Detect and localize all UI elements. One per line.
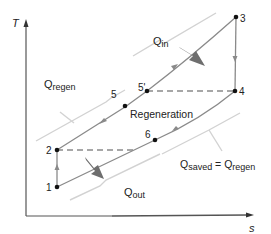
t-axis-label: T bbox=[12, 17, 20, 29]
q-out-label: Qout bbox=[124, 186, 146, 200]
q-in-label: Qin bbox=[153, 35, 169, 49]
q-saved-label: Qsaved = Qregen bbox=[180, 158, 255, 172]
s-axis-label-text: s bbox=[249, 222, 255, 234]
point-2 bbox=[55, 148, 60, 153]
q-regen-label: Qregen bbox=[44, 78, 76, 92]
ts-diagram: T bbox=[0, 0, 271, 234]
t-axis-arrow-icon bbox=[24, 19, 29, 27]
dashed-lines bbox=[57, 91, 235, 150]
point-6 bbox=[153, 138, 158, 143]
label-2: 2 bbox=[46, 145, 52, 156]
q-regen-leader bbox=[60, 112, 74, 123]
point-3 bbox=[234, 15, 239, 20]
s-axis-2 bbox=[112, 215, 248, 216]
point-1 bbox=[55, 185, 60, 190]
q-out-arrow-icon bbox=[85, 157, 104, 179]
label-4: 4 bbox=[239, 86, 245, 97]
label-1: 1 bbox=[46, 182, 52, 193]
regeneration-label: Regeneration bbox=[130, 108, 193, 120]
label-3: 3 bbox=[240, 13, 246, 24]
arrow-3-4-icon bbox=[233, 56, 238, 62]
q-in-bracket bbox=[133, 13, 216, 56]
label-5: 5 bbox=[111, 89, 117, 100]
label-5p: 5' bbox=[138, 82, 146, 93]
q-out-bracket bbox=[70, 154, 160, 200]
s-axis-arrow-icon bbox=[246, 213, 254, 218]
process-3-4 bbox=[235, 17, 236, 91]
point-5 bbox=[123, 104, 128, 109]
annotations: Qin Qregen Regeneration Qsaved = Qregen … bbox=[44, 35, 255, 200]
arrow-1-2-icon bbox=[55, 164, 60, 170]
q-saved-leader bbox=[209, 130, 222, 151]
point-4 bbox=[233, 89, 238, 94]
label-6: 6 bbox=[145, 129, 151, 140]
